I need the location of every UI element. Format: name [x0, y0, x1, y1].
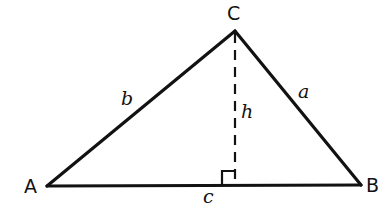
side-b-line: [47, 31, 235, 186]
side-label-b: b: [121, 89, 133, 108]
side-label-a: a: [298, 82, 309, 101]
geometry-diagram-canvas: A B C a b c h: [0, 0, 391, 218]
vertex-label-b: B: [366, 176, 379, 195]
side-a-line: [235, 31, 361, 185]
vertex-label-c: C: [227, 4, 240, 23]
side-label-c: c: [203, 187, 214, 206]
altitude-label-h: h: [241, 102, 253, 121]
triangle-diagram-svg: [0, 0, 391, 218]
vertex-label-a: A: [24, 177, 37, 196]
